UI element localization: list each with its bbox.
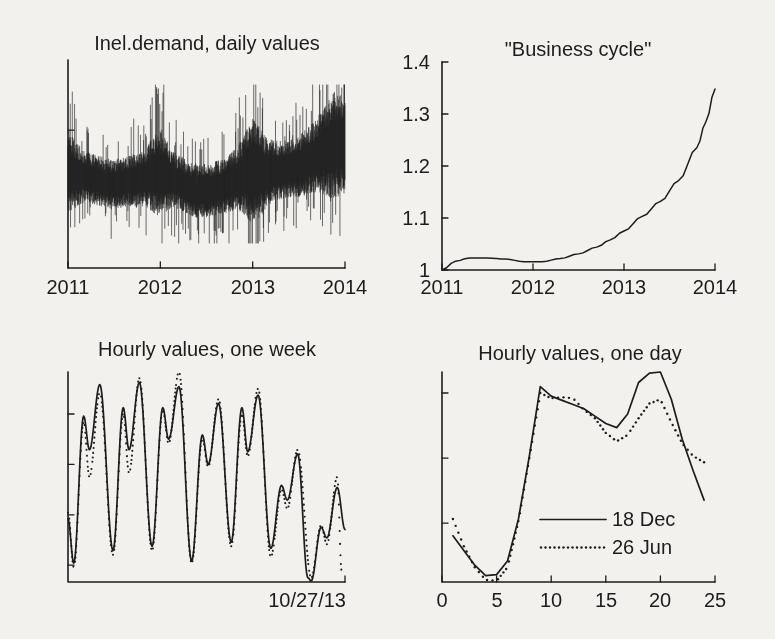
cycle-x-tick-2014: 2014 bbox=[680, 277, 750, 297]
cycle-plot-title: "Business cycle" bbox=[398, 39, 758, 59]
cycle-y-tick-1p2: 1.2 bbox=[350, 156, 430, 176]
cycle-y-tick-1: 1 bbox=[350, 260, 430, 280]
day-x-tick-25: 25 bbox=[680, 590, 750, 610]
week-end-date-label: 10/27/13 bbox=[216, 590, 346, 610]
cycle-y-tick-1p4: 1.4 bbox=[350, 52, 430, 72]
day-plot-title: Hourly values, one day bbox=[400, 343, 760, 363]
daily-x-tick-2011: 2011 bbox=[33, 277, 103, 297]
daily-x-tick-2013: 2013 bbox=[218, 277, 288, 297]
daily-plot-title: Inel.demand, daily values bbox=[27, 33, 387, 53]
cycle-x-tick-2013: 2013 bbox=[589, 277, 659, 297]
week-plot-title: Hourly values, one week bbox=[27, 339, 387, 359]
daily-x-tick-2014: 2014 bbox=[310, 277, 380, 297]
cycle-x-tick-2012: 2012 bbox=[498, 277, 568, 297]
cycle-y-tick-1p1: 1.1 bbox=[350, 208, 430, 228]
legend-label-dotted: 26 Jun bbox=[612, 537, 722, 557]
cycle-x-tick-2011: 2011 bbox=[407, 277, 477, 297]
cycle-y-tick-1p3: 1.3 bbox=[350, 104, 430, 124]
legend-label-solid: 18 Dec bbox=[612, 509, 722, 529]
daily-x-tick-2012: 2012 bbox=[125, 277, 195, 297]
scanned-figure: Inel.demand, daily values "Business cycl… bbox=[0, 0, 775, 639]
